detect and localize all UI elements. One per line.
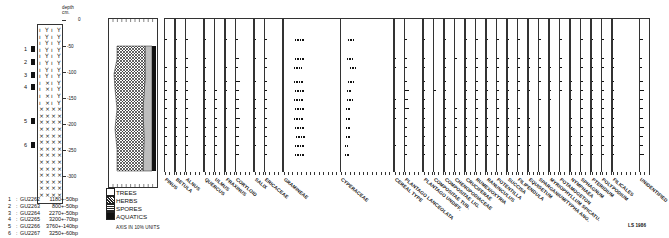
depth-tick: [62, 150, 66, 151]
pollen-value-bar: [518, 145, 520, 146]
pollen-value-bar: [424, 81, 426, 82]
pollen-value-bar: [176, 136, 178, 137]
pollen-value-bar: [640, 58, 642, 59]
pollen-value-bar: [348, 81, 354, 83]
pollen-value-bar: [466, 154, 468, 155]
axis-tick: [292, 172, 293, 175]
date-index: 2: [8, 203, 16, 210]
lab-code: GU2262: [20, 196, 42, 203]
depth-tick-label: -300: [67, 174, 76, 179]
pollen-value-bar: [347, 58, 352, 60]
pollen-value-bar: [294, 67, 302, 69]
pollen-value-bar: [295, 108, 304, 110]
taxon-column: [164, 18, 175, 172]
axis-tick: [585, 172, 586, 175]
sample-number: 2: [24, 59, 27, 65]
axis-tick: [522, 172, 523, 175]
pollen-value-bar: [445, 145, 447, 146]
pollen-value-bar: [487, 90, 489, 91]
axis-tick: [554, 172, 555, 175]
pollen-value-bar: [640, 118, 643, 119]
axis-tick: [336, 172, 337, 175]
pollen-value-bar: [296, 136, 306, 138]
pollen-value-bar: [350, 67, 357, 69]
axis-tick: [497, 172, 498, 175]
pollen-value-bar: [497, 127, 499, 128]
pollen-value-bar: [529, 90, 531, 91]
axis-tick: [278, 172, 279, 175]
depth-tick: [62, 98, 66, 99]
pollen-value-bar: [487, 145, 489, 146]
date-index: 6: [8, 230, 16, 237]
pollen-value-bar: [236, 136, 239, 137]
pollen-value-bar: [455, 58, 457, 59]
pollen-value-bar: [424, 108, 426, 109]
pollen-value-bar: [508, 145, 510, 146]
axis-tick: [466, 172, 467, 175]
pollen-value-bar: [347, 99, 352, 101]
date-index: 4: [8, 216, 16, 223]
axis-tick: [626, 172, 627, 175]
pollen-value-bar: [602, 58, 604, 59]
pollen-value-bar: [205, 58, 207, 59]
pollen-value-bar: [265, 154, 267, 155]
pollen-value-bar: [466, 67, 468, 68]
axis-tick: [395, 172, 396, 175]
depth-tick-label: 0: [78, 17, 81, 22]
pollen-value-bar: [518, 136, 520, 137]
pollen-value-bar: [466, 108, 468, 109]
pollen-value-bar: [165, 118, 167, 119]
pollen-value-bar: [424, 145, 426, 146]
legend-item-spores: SPORES: [106, 204, 147, 212]
pollen-value-bar: [265, 81, 267, 82]
pollen-value-bar: [405, 127, 407, 128]
axis-tick: [470, 172, 471, 175]
date-row: 5:GU22663760+-140bp: [8, 223, 78, 230]
pollen-value-bar: [640, 81, 643, 82]
taxon-column: [580, 18, 591, 172]
pollen-value-bar: [508, 127, 510, 128]
pollen-value-bar: [265, 145, 267, 146]
pollen-value-bar: [165, 154, 167, 155]
sample-number: 3: [24, 72, 27, 78]
date-row: 4:GU22653200+-70bp: [8, 216, 78, 223]
pollen-value-bar: [294, 99, 303, 101]
pollen-value-bar: [215, 99, 217, 100]
pollen-value-bar: [466, 90, 468, 91]
axis-tick: [409, 172, 410, 175]
pollen-value-bar: [592, 58, 594, 59]
pollen-value-bar: [466, 81, 468, 82]
pollen-value-bar: [640, 145, 643, 146]
taxon-column: [591, 18, 602, 172]
pollen-value-bar: [346, 136, 350, 138]
axis-tick: [215, 172, 216, 175]
pollen-value-bar: [592, 67, 594, 68]
pollen-value-bar: [455, 108, 457, 109]
pollen-value-bar: [581, 81, 583, 82]
pollen-value-bar: [205, 136, 207, 137]
taxon-column: [528, 18, 539, 172]
axis-tick: [592, 172, 593, 175]
date-age: 3250+-60bp: [42, 230, 78, 237]
axis-tick: [508, 172, 509, 175]
pollen-value-bar: [581, 58, 583, 59]
pollen-value-bar: [295, 145, 304, 147]
pollen-value-bar: [508, 67, 510, 68]
axis-tick: [543, 172, 544, 175]
axis-tick: [301, 172, 302, 175]
axis-tick: [399, 172, 400, 175]
axis-tick: [314, 172, 315, 175]
pollen-value-bar: [550, 99, 552, 100]
pollen-value-bar: [581, 108, 583, 109]
pollen-value-bar: [236, 39, 238, 40]
pollen-value-bar: [497, 39, 499, 40]
date-row: 2:GU2263800+-50bp: [8, 203, 78, 210]
pollen-value-bar: [424, 136, 426, 137]
pollen-value-bar: [205, 118, 207, 119]
axis-tick: [414, 172, 415, 175]
taxon-column: [283, 18, 341, 172]
sample-marker: [31, 118, 35, 124]
axis-tick: [310, 172, 311, 175]
pollen-value-bar: [476, 90, 478, 91]
depth-tick-label: -100: [67, 70, 76, 75]
